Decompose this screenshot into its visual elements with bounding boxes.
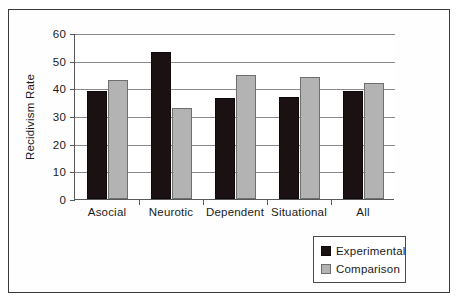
x-axis-tick <box>331 199 332 205</box>
y-axis-tick-label: 10 <box>53 166 66 178</box>
x-axis-label-asocial: Asocial <box>88 206 126 218</box>
x-axis-tick <box>139 199 140 205</box>
bar-comparison-all <box>364 83 384 199</box>
x-axis-label-all: All <box>356 206 369 218</box>
bar-experimental-asocial <box>87 91 107 199</box>
x-axis-tick <box>203 199 204 205</box>
y-axis-tick <box>70 145 75 146</box>
x-axis-label-neurotic: Neurotic <box>149 206 193 218</box>
bar-comparison-neurotic <box>172 108 192 199</box>
black-square-swatch <box>321 246 331 256</box>
bar-comparison-situational <box>300 77 320 199</box>
y-axis-tick-label: 20 <box>53 139 66 151</box>
y-axis-tick <box>70 62 75 63</box>
bar-comparison-dependent <box>236 75 256 200</box>
y-axis-tick <box>70 200 75 201</box>
y-axis-tick <box>70 34 75 35</box>
y-axis-tick-label: 40 <box>53 83 66 95</box>
legend-label-experimental: Experimental <box>336 245 406 257</box>
plot-area: 0102030405060AsocialNeuroticDependentSit… <box>74 34 394 200</box>
bar-experimental-all <box>343 91 363 199</box>
x-axis-label-situational: Situational <box>271 206 327 218</box>
y-axis-title: Recidivism Rate <box>22 34 38 200</box>
gridline <box>75 34 395 35</box>
y-axis-tick-label: 30 <box>53 111 66 123</box>
y-axis-tick-label: 50 <box>53 56 66 68</box>
bar-experimental-neurotic <box>151 52 171 199</box>
y-axis-tick <box>70 89 75 90</box>
x-axis-label-dependent: Dependent <box>206 206 264 218</box>
bar-experimental-dependent <box>215 98 235 199</box>
y-axis-tick-label: 60 <box>53 28 66 40</box>
chart-legend: Experimental Comparison <box>313 236 406 283</box>
legend-item-comparison: Comparison <box>321 260 405 278</box>
legend-label-comparison: Comparison <box>336 263 400 275</box>
bar-experimental-situational <box>279 97 299 199</box>
gray-square-swatch <box>321 264 331 274</box>
y-axis-tick <box>70 172 75 173</box>
x-axis-tick <box>267 199 268 205</box>
legend-item-experimental: Experimental <box>321 242 405 260</box>
bar-comparison-asocial <box>108 80 128 199</box>
chart-figure: Recidivism Rate 0102030405060AsocialNeur… <box>0 0 460 303</box>
y-axis-tick-label: 0 <box>59 194 66 206</box>
y-axis-tick <box>70 117 75 118</box>
gridline <box>75 62 395 63</box>
